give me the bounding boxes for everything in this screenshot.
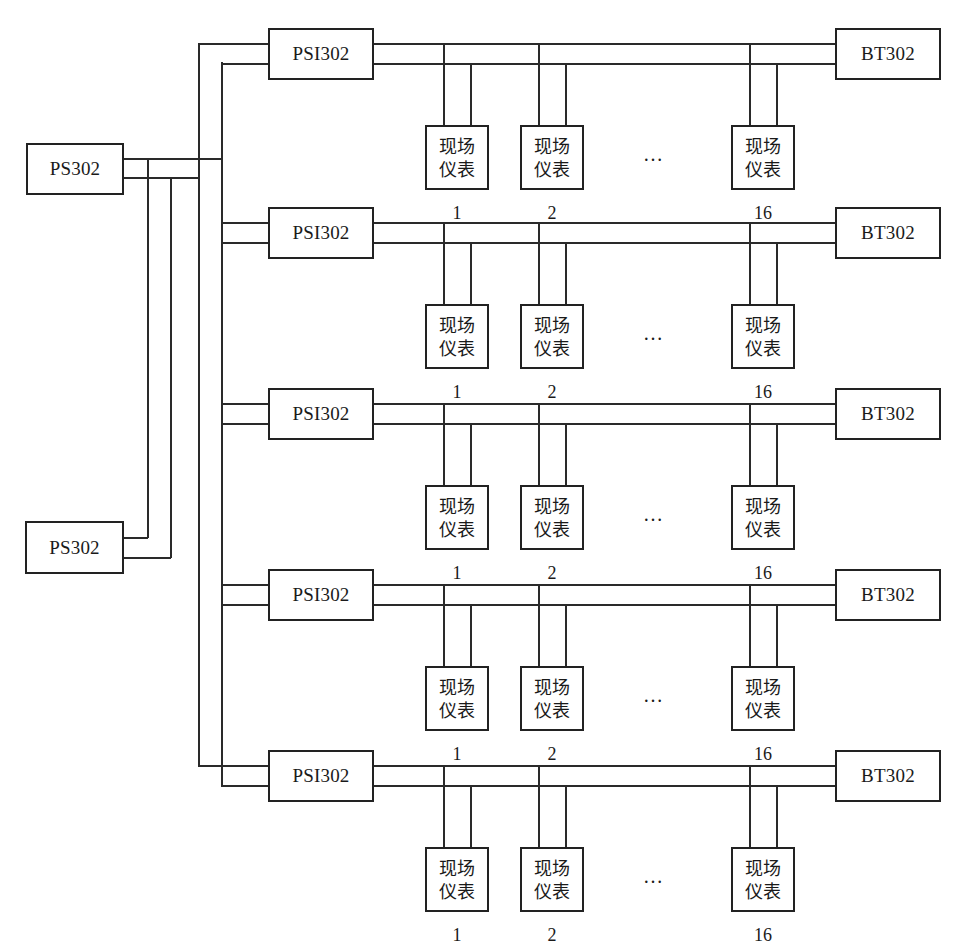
- field-instrument-box: 现场 仪表: [425, 485, 489, 550]
- ellipsis-more-instruments: …: [643, 322, 664, 345]
- instrument-drop-wire-b: [776, 242, 778, 304]
- instrument-number: 2: [522, 744, 582, 765]
- instrument-text-line2: 仪表: [534, 880, 570, 903]
- field-instrument-box: 现场 仪表: [425, 666, 489, 731]
- instrument-drop-wire-b: [470, 604, 472, 666]
- instrument-drop-wire-b: [565, 63, 567, 125]
- instrument-text-line2: 仪表: [745, 518, 781, 541]
- psi-feed-wire-upper: [221, 403, 268, 405]
- instrument-text-line1: 现场: [745, 314, 781, 337]
- instrument-text-line2: 仪表: [534, 518, 570, 541]
- instrument-text-line1: 现场: [745, 676, 781, 699]
- psi-feed-wire-upper: [221, 222, 268, 224]
- field-instrument-box: 现场 仪表: [425, 847, 489, 912]
- instrument-number: 1: [427, 563, 487, 584]
- instrument-drop-wire-b: [470, 785, 472, 847]
- psi-label: PSI302: [292, 222, 349, 244]
- psi-feed-wire-upper: [198, 43, 268, 45]
- power-supply-label: PS302: [49, 537, 100, 559]
- instrument-text-line2: 仪表: [439, 518, 475, 541]
- instrument-number: 2: [522, 203, 582, 224]
- instrument-number: 2: [522, 925, 582, 945]
- field-instrument-box: 现场 仪表: [731, 125, 795, 190]
- instrument-drop-wire-a: [749, 43, 751, 125]
- instrument-text-line1: 现场: [534, 314, 570, 337]
- field-instrument-box: 现场 仪表: [731, 847, 795, 912]
- instrument-number: 16: [733, 563, 793, 584]
- instrument-number: 1: [427, 203, 487, 224]
- psi-feed-wire-lower: [221, 785, 268, 787]
- psi-label: PSI302: [292, 765, 349, 787]
- instrument-number: 16: [733, 925, 793, 945]
- instrument-drop-wire-b: [776, 785, 778, 847]
- ellipsis-more-instruments: …: [643, 865, 664, 888]
- power-supply-box-2: PS302: [25, 521, 124, 574]
- bt302-terminator-box: BT302: [835, 388, 941, 440]
- instrument-text-line1: 现场: [439, 495, 475, 518]
- psi302-impedance-box: PSI302: [268, 207, 374, 259]
- instrument-drop-wire-b: [565, 785, 567, 847]
- instrument-text-line2: 仪表: [534, 337, 570, 360]
- instrument-drop-wire-a: [443, 43, 445, 125]
- instrument-text-line1: 现场: [534, 135, 570, 158]
- instrument-number: 16: [733, 744, 793, 765]
- instrument-text-line2: 仪表: [439, 699, 475, 722]
- field-instrument-box: 现场 仪表: [731, 485, 795, 550]
- instrument-drop-wire-b: [470, 242, 472, 304]
- instrument-drop-wire-a: [749, 222, 751, 304]
- instrument-text-line1: 现场: [745, 495, 781, 518]
- field-instrument-box: 现场 仪表: [520, 847, 584, 912]
- ps-link-vertical-b: [170, 177, 172, 558]
- instrument-text-line1: 现场: [534, 495, 570, 518]
- instrument-number: 2: [522, 563, 582, 584]
- ps1-wire-upper: [124, 158, 222, 160]
- terminator-label: BT302: [861, 584, 915, 606]
- instrument-text-line2: 仪表: [439, 337, 475, 360]
- instrument-number: 2: [522, 382, 582, 403]
- field-instrument-box: 现场 仪表: [731, 666, 795, 731]
- instrument-drop-wire-a: [538, 43, 540, 125]
- psi-feed-wire-lower: [221, 242, 268, 244]
- bt302-terminator-box: BT302: [835, 207, 941, 259]
- instrument-number: 1: [427, 744, 487, 765]
- instrument-text-line2: 仪表: [439, 158, 475, 181]
- instrument-text-line1: 现场: [439, 314, 475, 337]
- ps2-wire-lower: [124, 557, 171, 559]
- instrument-text-line2: 仪表: [534, 158, 570, 181]
- terminator-label: BT302: [861, 765, 915, 787]
- ps1-wire-lower: [124, 177, 199, 179]
- psi-label: PSI302: [292, 43, 349, 65]
- field-instrument-box: 现场 仪表: [425, 125, 489, 190]
- instrument-drop-wire-b: [470, 63, 472, 125]
- terminator-label: BT302: [861, 403, 915, 425]
- psi-feed-wire-lower: [221, 63, 268, 65]
- instrument-text-line2: 仪表: [745, 699, 781, 722]
- instrument-text-line1: 现场: [534, 676, 570, 699]
- terminator-label: BT302: [861, 222, 915, 244]
- instrument-drop-wire-a: [443, 584, 445, 666]
- instrument-drop-wire-a: [443, 403, 445, 485]
- instrument-drop-wire-b: [776, 423, 778, 485]
- psi-feed-wire-upper: [198, 765, 268, 767]
- instrument-number: 16: [733, 382, 793, 403]
- psi302-impedance-box: PSI302: [268, 28, 374, 80]
- instrument-drop-wire-a: [443, 222, 445, 304]
- psi302-impedance-box: PSI302: [268, 569, 374, 621]
- instrument-text-line1: 现场: [439, 676, 475, 699]
- instrument-text-line1: 现场: [534, 857, 570, 880]
- field-instrument-box: 现场 仪表: [425, 304, 489, 369]
- instrument-drop-wire-a: [538, 222, 540, 304]
- instrument-drop-wire-b: [565, 242, 567, 304]
- instrument-text-line1: 现场: [439, 135, 475, 158]
- field-instrument-box: 现场 仪表: [520, 125, 584, 190]
- instrument-drop-wire-b: [776, 63, 778, 125]
- instrument-drop-wire-a: [749, 403, 751, 485]
- field-instrument-box: 现场 仪表: [520, 304, 584, 369]
- instrument-text-line2: 仪表: [534, 699, 570, 722]
- field-instrument-box: 现场 仪表: [520, 666, 584, 731]
- instrument-text-line2: 仪表: [745, 158, 781, 181]
- instrument-drop-wire-a: [538, 403, 540, 485]
- instrument-drop-wire-a: [443, 765, 445, 847]
- psi-feed-wire-lower: [221, 423, 268, 425]
